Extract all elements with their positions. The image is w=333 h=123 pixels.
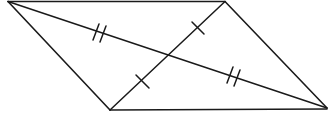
side-right — [225, 2, 327, 109]
single-tick-mark-lower — [136, 75, 149, 88]
side-bottom — [110, 109, 327, 110]
double-tick-mark-upper — [93, 24, 106, 42]
parallelogram-diagram — [0, 0, 333, 123]
short-diagonal — [110, 2, 225, 111]
